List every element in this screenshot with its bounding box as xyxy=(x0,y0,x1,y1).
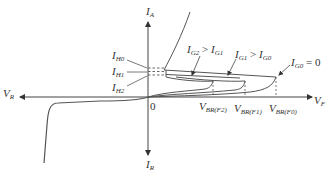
gate-annotations: IG2 > IG1 IG1 > IG0 IG0 = 0 xyxy=(186,43,321,75)
blocking-curve-ig1 xyxy=(148,81,245,97)
vbr-f2-label: VBR(F2) xyxy=(199,100,227,114)
holding-current-labels: IH0 IH1 IH2 xyxy=(111,49,147,95)
vbr-f0-label: VBR(F0) xyxy=(269,102,297,116)
on-state-region xyxy=(164,12,276,78)
ir-label: IR xyxy=(145,158,155,172)
vr-label: VR xyxy=(3,87,15,101)
breakover-labels: VBR(F2) VBR(F1) VBR(F0) xyxy=(199,100,297,116)
holding-dashes xyxy=(148,68,166,75)
on-state-steep-curve xyxy=(164,12,190,70)
ig1-gt-ig0-label: IG1 > IG0 xyxy=(234,48,272,62)
ih0-label: IH0 xyxy=(111,49,125,63)
on-state-line-upper xyxy=(164,70,276,77)
ih1-label: IH1 xyxy=(111,65,124,79)
axes xyxy=(20,22,312,155)
ig2-gt-ig1-label: IG2 > IG1 xyxy=(186,43,223,57)
vbr-f1-label: VBR(F1) xyxy=(234,102,262,116)
axis-labels: IA IR VF VR 0 xyxy=(3,5,326,172)
reverse-characteristic-curve xyxy=(44,97,148,163)
origin-label: 0 xyxy=(150,100,156,112)
blocking-curve-ig0 xyxy=(148,77,276,97)
thyristor-iv-diagram: IA IR VF VR 0 IH0 IH1 IH2 xyxy=(0,0,330,182)
ih2-label: IH2 xyxy=(111,81,125,95)
ig0-eq-zero-label: IG0 = 0 xyxy=(290,56,321,70)
ia-label: IA xyxy=(145,5,155,19)
vf-label: VF xyxy=(314,94,326,108)
forward-blocking-curves xyxy=(148,77,276,97)
